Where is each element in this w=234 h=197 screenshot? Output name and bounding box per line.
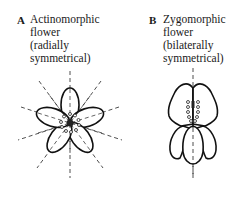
actinomorphic-flower-icon xyxy=(18,71,122,178)
flower-diagrams xyxy=(0,0,234,197)
pistil xyxy=(192,101,195,108)
pistil xyxy=(67,120,74,127)
zygomorphic-flower-icon xyxy=(168,68,217,180)
